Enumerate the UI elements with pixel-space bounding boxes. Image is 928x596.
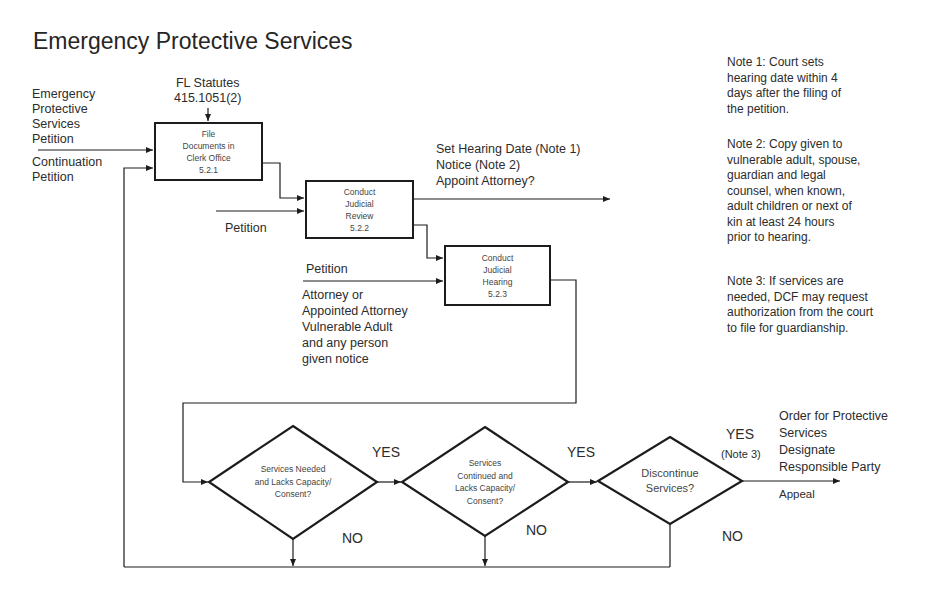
process-text: Clerk Office [186,152,230,164]
decision-line: Services [455,457,515,470]
decision-line: Continued and [455,470,515,483]
note-line: needed, DCF may request [727,290,873,306]
eps-petition-line: Protective [32,102,95,117]
hearing-party-line: Appointed Attorney [302,303,408,319]
final-output-line: Responsible Party [779,459,888,476]
review-outputs: Set Hearing Date (Note 1) Notice (Note 2… [436,141,581,189]
hearing-party-line: given notice [302,351,408,367]
eps-petition-line: Services [32,117,95,132]
process-text: Documents in [183,140,235,152]
process-box-judicial-hearing: Conduct Judicial Hearing 5.2.3 [444,245,551,306]
process-text: Conduct [482,252,514,264]
note-line: vulnerable adult, spouse, [727,153,860,169]
note-line: the petition. [727,102,841,118]
diagram-title: Emergency Protective Services [33,28,353,55]
final-output-line: Designate [779,442,888,459]
process-text: Review [346,210,374,222]
review-petition-label: Petition [225,221,267,236]
decision-line: Consent? [455,495,515,508]
hearing-party-line: Attorney or [302,287,408,303]
hearing-party-line: Vulnerable Adult [302,319,408,335]
process-text: File [202,128,216,140]
eps-petition-line: Emergency [32,87,95,102]
process-text: Judicial [345,198,373,210]
decision-line: Consent? [255,488,332,501]
decision-line: and Lacks Capacity/ [255,476,332,489]
eps-petition-line: Petition [32,132,95,147]
decision-2-no: NO [526,522,547,538]
statutes-line: 415.1051(2) [174,91,241,106]
note-line: to file for guardianship. [727,321,873,337]
decision-3-note-ref: (Note 3) [721,447,761,462]
review-output-line: Set Hearing Date (Note 1) [436,141,581,157]
continuation-petition-line: Petition [32,170,102,185]
continuation-petition-label: Continuation Petition [32,155,102,185]
note-line: kin at least 24 hours [727,215,860,231]
decision-1-text: Services Needed and Lacks Capacity/ Cons… [255,463,332,501]
process-id: 5.2.1 [199,164,218,176]
note-line: prior to hearing. [727,230,860,246]
decision-line: Discontinue [641,466,698,481]
note-2: Note 2: Copy given to vulnerable adult, … [727,137,860,246]
note-1: Note 1: Court sets hearing date within 4… [727,55,841,117]
decision-3-no: NO [722,528,743,544]
decision-1-no: NO [342,530,363,546]
decision-2-text: Services Continued and Lacks Capacity/ C… [455,457,515,507]
statutes-line: FL Statutes [174,76,241,91]
hearing-parties-label: Attorney or Appointed Attorney Vulnerabl… [302,287,408,367]
decision-1-yes: YES [372,444,400,460]
decision-line: Lacks Capacity/ [455,482,515,495]
decision-line: Services Needed [255,463,332,476]
eps-petition-label: Emergency Protective Services Petition [32,87,95,147]
note-line: hearing date within 4 [727,71,841,87]
review-output-line: Appoint Attorney? [436,173,581,189]
continuation-petition-line: Continuation [32,155,102,170]
process-id: 5.2.2 [350,222,369,234]
review-output-line: Notice (Note 2) [436,157,581,173]
final-output-line: Order for Protective [779,408,888,425]
note-line: Note 3: If services are [727,274,873,290]
process-text: Judicial [483,264,511,276]
decision-2-yes: YES [567,444,595,460]
note-line: counsel, when known, [727,184,860,200]
note-line: days after the filing of [727,86,841,102]
process-box-judicial-review: Conduct Judicial Review 5.2.2 [305,180,414,239]
note-line: authorization from the court [727,305,873,321]
process-box-file-documents: File Documents in Clerk Office 5.2.1 [154,122,263,181]
process-id: 5.2.3 [488,288,507,300]
final-output-line: Services [779,425,888,442]
note-3: Note 3: If services are needed, DCF may … [727,274,873,336]
decision-3-yes: YES [726,426,754,442]
final-outputs: Order for Protective Services Designate … [779,408,888,476]
note-line: Note 1: Court sets [727,55,841,71]
note-line: Note 2: Copy given to [727,137,860,153]
process-text: Hearing [483,276,513,288]
hearing-petition-label: Petition [306,262,348,277]
decision-line: Services? [641,481,698,496]
note-line: guardian and legal [727,168,860,184]
hearing-party-line: and any person [302,335,408,351]
process-text: Conduct [344,186,376,198]
decision-3-text: Discontinue Services? [641,466,698,496]
statutes-label: FL Statutes 415.1051(2) [174,76,241,106]
appeal-label: Appeal [779,487,815,502]
note-line: adult children or next of [727,199,860,215]
